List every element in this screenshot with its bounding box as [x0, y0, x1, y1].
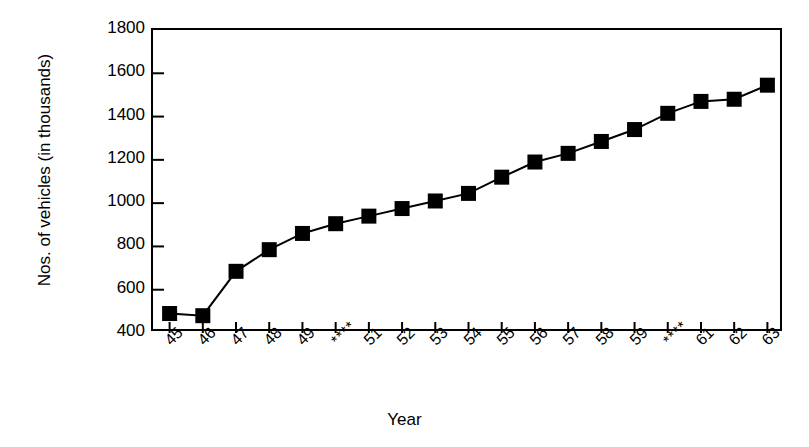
data-point-markers — [162, 78, 775, 324]
data-point-marker — [162, 306, 177, 321]
data-point-marker — [229, 264, 244, 279]
y-tick-label: 1800 — [55, 19, 145, 36]
data-point-marker — [295, 226, 310, 241]
data-point-marker — [527, 155, 542, 170]
data-point-marker — [594, 134, 609, 149]
chart-figure: Nos. of vehicles (in thousands) 40060080… — [0, 0, 809, 447]
data-point-marker — [561, 146, 576, 161]
x-axis-title: Year — [0, 410, 809, 430]
y-tick-label: 1200 — [55, 149, 145, 166]
y-tick-label: 600 — [55, 279, 145, 296]
data-point-marker — [262, 242, 277, 257]
data-point-marker — [328, 216, 343, 231]
y-axis-tick-labels: 40060080010001200140016001800 — [50, 28, 145, 331]
data-point-marker — [361, 209, 376, 224]
y-tick-marks — [153, 73, 164, 289]
y-tick-label: 1000 — [55, 192, 145, 209]
data-point-marker — [727, 92, 742, 107]
data-point-marker — [660, 106, 675, 121]
plot-svg — [153, 30, 784, 333]
plot-area — [151, 28, 782, 331]
y-tick-label: 1400 — [55, 106, 145, 123]
data-point-marker — [760, 78, 775, 93]
data-point-marker — [195, 308, 210, 323]
data-point-marker — [494, 170, 509, 185]
data-point-marker — [428, 193, 443, 208]
x-axis-tick-labels: 4546474849****515253545556575859****6162… — [151, 331, 782, 401]
y-tick-label: 1600 — [55, 62, 145, 79]
data-point-marker — [461, 186, 476, 201]
data-point-marker — [627, 122, 642, 137]
data-point-marker — [395, 201, 410, 216]
y-tick-label: 800 — [55, 235, 145, 252]
y-tick-label: 400 — [55, 322, 145, 339]
data-point-marker — [693, 94, 708, 109]
